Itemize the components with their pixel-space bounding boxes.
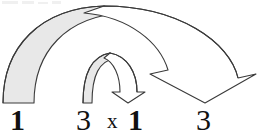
term-left-outer: 1: [10, 105, 25, 135]
term-left-inner: 3: [76, 105, 91, 135]
diagram-canvas: 1 3 x 1 3: [0, 0, 260, 139]
expression-row: 1 3 x 1 3: [0, 104, 260, 139]
multiply-operator: x: [107, 111, 118, 132]
term-right-inner: 1: [128, 105, 143, 135]
term-right-outer: 3: [196, 105, 211, 135]
